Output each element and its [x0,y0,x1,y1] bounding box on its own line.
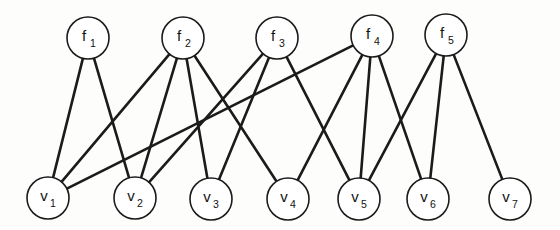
factor-node-subscript: 1 [90,37,96,49]
graph-edge [379,55,422,180]
edges-layer [53,45,503,189]
graph-node-v3[interactable]: v3 [190,178,232,220]
graph-node-v6[interactable]: v6 [407,178,449,220]
factor-node-subscript: 5 [448,34,454,46]
variable-node-circle [407,178,449,220]
variable-node-label: v [203,188,211,205]
variable-node-subscript: 2 [137,197,143,209]
variable-node-subscript: 5 [361,198,367,210]
graph-node-f1[interactable]: f1 [67,17,109,59]
graph-edge [361,56,371,179]
variable-node-label: v [420,188,428,205]
graph-node-v5[interactable]: v5 [338,178,380,220]
factor-node-circle [351,15,393,57]
variable-node-subscript: 6 [430,198,436,210]
graph-node-f4[interactable]: f4 [351,15,393,57]
nodes-layer: f1f2f3f4f5v1v2v3v4v5v6v7 [27,14,531,220]
variable-node-circle [114,177,156,219]
variable-node-label: v [502,188,510,205]
variable-node-circle [338,178,380,220]
variable-node-subscript: 1 [50,197,56,209]
graph-node-f5[interactable]: f5 [425,14,467,56]
graph-node-v7[interactable]: v7 [489,178,531,220]
factor-node-circle [162,17,204,59]
graph-node-v1[interactable]: v1 [27,177,69,219]
graph-edge [141,57,178,179]
factor-node-subscript: 3 [279,37,285,49]
factor-node-subscript: 4 [374,35,380,47]
graph-edge [66,45,354,189]
graph-node-v2[interactable]: v2 [114,177,156,219]
factor-node-circle [425,14,467,56]
variable-node-circle [489,178,531,220]
factor-node-subscript: 2 [185,37,191,49]
bipartite-graph-figure: f1f2f3f4f5v1v2v3v4v5v6v7 [0,0,560,230]
variable-node-circle [267,178,309,220]
graph-node-f3[interactable]: f3 [256,17,298,59]
graph-edge [430,55,444,179]
variable-node-label: v [280,188,288,205]
graph-node-v4[interactable]: v4 [267,178,309,220]
graph-edge [297,54,363,181]
variable-node-circle [190,178,232,220]
graph-edge [453,54,502,181]
variable-node-subscript: 7 [512,198,518,210]
graph-edge [368,53,436,182]
variable-node-subscript: 4 [290,198,296,210]
variable-node-label: v [40,187,48,204]
graph-node-f2[interactable]: f2 [162,17,204,59]
factor-node-circle [256,17,298,59]
variable-node-label: v [351,188,359,205]
factor-node-circle [67,17,109,59]
variable-node-label: v [127,187,135,204]
graph-canvas: f1f2f3f4f5v1v2v3v4v5v6v7 [0,0,560,230]
variable-node-circle [27,177,69,219]
variable-node-subscript: 3 [213,198,219,210]
